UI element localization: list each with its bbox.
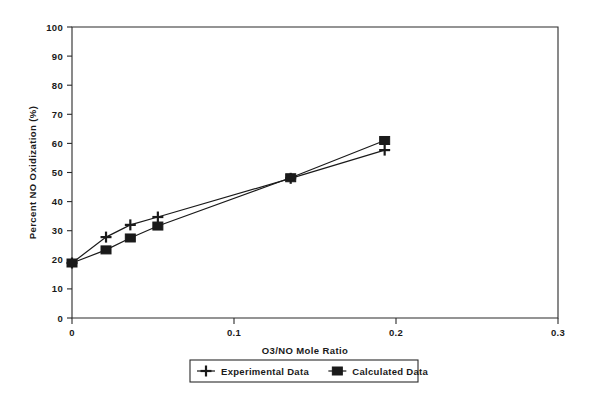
axis-frame xyxy=(72,27,558,318)
series-calculated xyxy=(67,136,390,267)
series-experimental xyxy=(67,145,391,269)
y-tick-label-8: 80 xyxy=(52,80,63,91)
y-axis-title: Percent NO Oxidization (%) xyxy=(27,106,38,239)
x-tick-label-3: 0.3 xyxy=(551,327,565,338)
data-point-0-2 xyxy=(125,219,136,230)
y-tick-label-5: 50 xyxy=(52,167,63,178)
series-line-0 xyxy=(72,150,385,263)
x-tick-label-0: 0 xyxy=(69,327,75,338)
legend-label-0: Experimental Data xyxy=(221,366,309,377)
y-tick-label-4: 40 xyxy=(52,196,63,207)
y-tick-label-9: 90 xyxy=(52,51,63,62)
chart-legend: Experimental DataCalculated Data xyxy=(190,360,429,382)
chart-ticks xyxy=(67,27,558,324)
x-tick-label-1: 0.1 xyxy=(227,327,242,338)
data-point-1-1 xyxy=(101,246,111,254)
legend-label-1: Calculated Data xyxy=(352,366,428,377)
data-point-0-1 xyxy=(101,232,112,243)
data-point-0-5 xyxy=(379,145,390,156)
x-tick-label-2: 0.2 xyxy=(389,327,403,338)
data-point-1-0 xyxy=(67,259,77,267)
chart-figure: 010203040506070809010000.10.20.3 O3/NO M… xyxy=(0,0,593,407)
y-tick-label-10: 100 xyxy=(46,22,63,33)
data-point-1-5 xyxy=(380,136,390,144)
y-tick-label-6: 60 xyxy=(52,138,63,149)
chart-plot-area: 010203040506070809010000.10.20.3 O3/NO M… xyxy=(0,0,593,407)
y-tick-label-0: 0 xyxy=(57,313,63,324)
data-point-1-4 xyxy=(286,174,296,182)
chart-axes xyxy=(72,27,558,318)
chart-tick-labels: 010203040506070809010000.10.20.3 xyxy=(46,22,565,339)
y-tick-label-1: 10 xyxy=(52,283,63,294)
y-tick-label-3: 30 xyxy=(52,225,63,236)
legend-square-marker-1 xyxy=(332,367,342,375)
data-point-0-3 xyxy=(152,212,163,223)
data-point-1-3 xyxy=(153,222,163,230)
y-tick-label-7: 70 xyxy=(52,109,63,120)
series-line-1 xyxy=(72,140,385,263)
chart-series xyxy=(67,136,391,268)
y-tick-label-2: 20 xyxy=(52,254,63,265)
x-axis-title: O3/NO Mole Ratio xyxy=(262,345,349,356)
data-point-1-2 xyxy=(125,234,135,242)
